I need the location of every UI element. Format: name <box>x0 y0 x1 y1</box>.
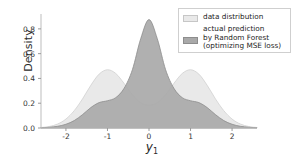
chart-legend: data distribution actual prediction by R… <box>178 8 291 53</box>
legend-label-rf-prediction: actual prediction by Random Forest (opti… <box>203 25 281 51</box>
x-tick-label: 1 <box>181 132 201 141</box>
legend-swatch-icon <box>183 15 198 22</box>
y-tick-label: 0.4 <box>15 74 35 83</box>
x-tick-label: 0 <box>139 132 159 141</box>
y-tick-label: 0.0 <box>15 124 35 133</box>
x-axis-label: y1 <box>110 140 194 156</box>
legend-swatch-icon <box>183 37 198 44</box>
x-tick-label: -2 <box>56 132 76 141</box>
y-tick-label: 0.6 <box>15 50 35 59</box>
legend-entry-rf-prediction: actual prediction by Random Forest (opti… <box>183 25 281 51</box>
x-axis-label-main: y <box>146 140 153 154</box>
x-axis-label-subscript: 1 <box>153 147 158 156</box>
x-tick-label: 2 <box>222 132 242 141</box>
y-tick-label: 0.2 <box>15 99 35 108</box>
y-tick-label: 0.8 <box>15 25 35 34</box>
legend-label-data-distribution: data distribution <box>203 13 263 22</box>
legend-entry-data-distribution: data distribution <box>183 13 263 22</box>
x-tick-label: -1 <box>97 132 117 141</box>
density-chart-figure: Density y1 -2-1012 0.00.20.40.60.8 data … <box>0 0 298 160</box>
